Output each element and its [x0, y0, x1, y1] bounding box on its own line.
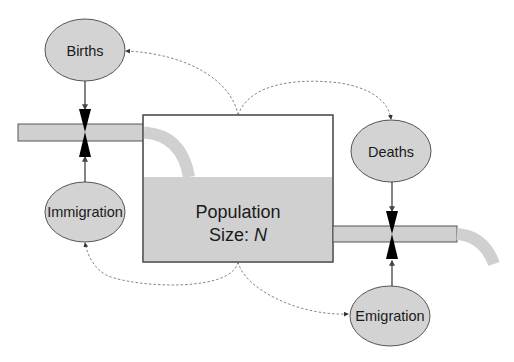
- inflow-pipe: [18, 124, 145, 141]
- stock-title: Population: [195, 201, 280, 224]
- stock-size-label: Size:: [209, 225, 249, 245]
- stock-variable: N: [254, 225, 267, 245]
- stock-label: Population Size: N: [195, 201, 280, 247]
- outflow-pipe: [333, 226, 457, 242]
- outflow-stream: [457, 234, 494, 264]
- stock-size: Size: N: [195, 224, 280, 247]
- births-label: Births: [66, 43, 103, 59]
- deaths-label: Deaths: [368, 144, 414, 160]
- emigration-label: Emigration: [355, 308, 424, 324]
- immigration-label: Immigration: [47, 204, 123, 220]
